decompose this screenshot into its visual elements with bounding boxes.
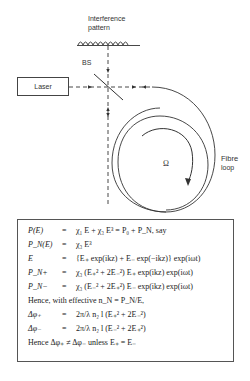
loop-label: loop [221,164,234,172]
rotation-arrowhead-icon [185,178,191,186]
laser-box: Laser [17,77,69,96]
sagnac-interferometer-diagram: Interference pattern BS Laser Ω Fibre lo… [0,0,250,215]
equation-row: P(E)=χ₁ E + χ₃ E³ = P₀ + P_N, say [28,226,167,236]
fibre-loop-outer [118,87,215,212]
rotation-arc [142,129,193,182]
equation-note: Hence, with effective n_N = P_N/E, [28,296,144,306]
omega-label: Ω [163,160,169,168]
pattern-label: pattern [88,24,110,32]
fibre-loop-inner [112,108,166,212]
equation-row: Δφ₋=2π/λ n₂ l (E₋² + 2E₊²) [28,324,146,334]
equation-row: Δφ₊=2π/λ n₂ l (E₊² + 2E₋²) [28,310,146,320]
interference-pattern-icon [77,42,140,46]
interference-label: Interference [88,15,125,23]
laser-label: Laser [34,83,52,90]
equation-row: P_N+=χ₃ (E₊² + 2E₋²) E₊ exp(ikz) exp(iωt… [28,268,193,278]
equations-box: P(E)=χ₁ E + χ₃ E³ = P₀ + P_N, say P_N(E)… [17,219,234,362]
equation-row: P_N−=χ₃ (E₋² + 2E₊²) E₋ exp(ikz) exp(iωt… [28,282,193,292]
fibre-label: Fibre [221,155,238,163]
equation-row: E={E₊ exp(ikz) + E₋ exp(−ikz)} exp(iωt) [28,254,200,264]
bs-label: BS [82,59,91,67]
equation-row: P_N(E)=χ₃ E³ [28,240,92,250]
diagram-lines [0,0,250,215]
equation-conclusion: Hence Δφ₊ ≠ Δφ₋ unless E₊ = E₋ [28,338,136,348]
